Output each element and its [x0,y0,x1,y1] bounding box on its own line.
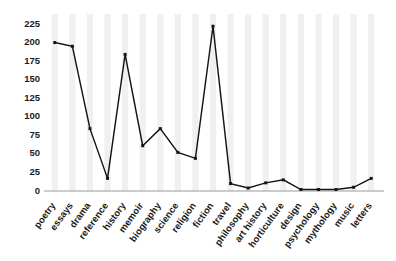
grid-band [315,14,321,191]
grid-band [192,14,198,191]
line-chart: 0255075100125150175200225 poetryessaysdr… [0,0,396,261]
grid-band [351,14,357,191]
grid-band [263,14,269,191]
y-axis-tick-label: 175 [24,55,41,66]
x-axis-tick-label-group: poetryessaysdramareferencehistorymemoirb… [31,200,373,250]
data-point-marker [352,186,355,189]
grid-band [69,14,75,191]
y-axis-tick-label: 0 [35,185,40,196]
data-point-marker [212,25,215,28]
y-axis-tick-label: 25 [29,166,40,177]
grid-band [245,14,251,191]
data-point-marker [106,177,109,180]
data-point-marker [264,181,267,184]
grid-band [122,14,128,191]
data-point-marker [299,188,302,191]
y-axis-tick-label: 200 [24,36,40,47]
data-point-marker [124,53,127,56]
data-point-marker [229,182,232,185]
y-axis-tick-label: 100 [24,110,40,121]
data-point-marker [282,178,285,181]
grid-band [298,14,304,191]
grid-band [368,14,374,191]
y-axis-tick-label: 75 [29,129,40,140]
grid-band [140,14,146,191]
data-point-marker [176,151,179,154]
data-point-marker [71,45,74,48]
data-point-marker [88,127,91,130]
y-axis-tick-label: 150 [24,73,40,84]
data-point-marker [370,177,373,180]
grid-band [52,14,58,191]
grid-band [175,14,181,191]
data-point-marker [247,187,250,190]
y-axis-tick-label: 125 [24,92,41,103]
grid-band [157,14,163,191]
y-axis-tick-label: 50 [29,147,40,158]
grid-band [333,14,339,191]
y-axis-tick-label-group: 0255075100125150175200225 [24,18,41,196]
chart-container: 0255075100125150175200225 poetryessaysdr… [0,0,396,261]
grid-band [87,14,93,191]
data-point-marker [317,188,320,191]
data-point-marker [335,188,338,191]
data-point-marker [159,127,162,130]
grid-band [280,14,286,191]
grid-band-group [52,14,375,191]
data-point-marker [194,157,197,160]
data-point-marker [141,144,144,147]
y-axis-tick-label: 225 [24,18,41,29]
data-point-marker [53,41,56,44]
